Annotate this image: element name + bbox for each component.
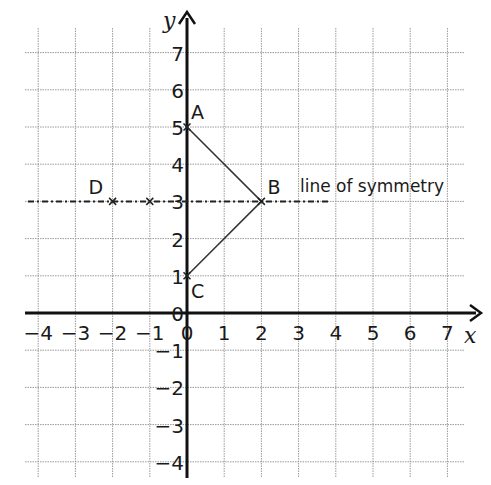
point-label-b: B bbox=[267, 176, 280, 198]
x-tick-label: 5 bbox=[367, 321, 380, 345]
x-tick-label: 1 bbox=[218, 321, 231, 345]
y-tick-label: 3 bbox=[171, 190, 184, 214]
x-tick-label: 3 bbox=[292, 321, 305, 345]
y-tick-label: 4 bbox=[171, 153, 184, 177]
y-tick-label: 0 bbox=[171, 302, 184, 326]
x-tick-label: 4 bbox=[329, 321, 342, 345]
point-label-c: C bbox=[191, 280, 204, 302]
y-tick-label: 6 bbox=[171, 79, 184, 103]
y-tick-label: −2 bbox=[155, 376, 184, 400]
point-label-a: A bbox=[191, 101, 204, 123]
y-tick-label: 5 bbox=[171, 116, 184, 140]
y-tick-label: 7 bbox=[171, 42, 184, 66]
axes bbox=[25, 12, 481, 478]
x-tick-label: 2 bbox=[255, 321, 268, 345]
x-axis-label: x bbox=[464, 323, 477, 348]
y-tick-label: 2 bbox=[171, 228, 184, 252]
y-tick-label: −4 bbox=[155, 451, 184, 475]
point-label-d: D bbox=[89, 176, 104, 198]
y-axis-label: y bbox=[162, 8, 176, 33]
coordinate-grid: −4−3−2−10123456776543210−1−2−3−4 ABCD x … bbox=[0, 0, 491, 485]
grid-lines bbox=[25, 28, 465, 478]
tick-labels: −4−3−2−10123456776543210−1−2−3−4 bbox=[23, 42, 453, 475]
x-tick-label: −2 bbox=[98, 321, 127, 345]
line-of-symmetry-label: line of symmetry bbox=[300, 176, 444, 196]
x-tick-label: 7 bbox=[441, 321, 454, 345]
x-tick-label: −3 bbox=[61, 321, 90, 345]
y-tick-label: −1 bbox=[155, 339, 184, 363]
x-tick-label: −4 bbox=[23, 321, 52, 345]
y-tick-label: −3 bbox=[155, 414, 184, 438]
y-tick-label: 1 bbox=[171, 265, 184, 289]
x-tick-label: 6 bbox=[404, 321, 417, 345]
